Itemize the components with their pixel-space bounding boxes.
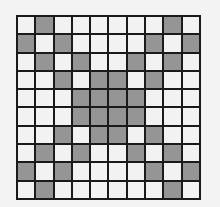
- filled-cell: [109, 127, 125, 143]
- filled-cell: [36, 54, 52, 70]
- empty-cell: [73, 35, 89, 51]
- empty-cell: [164, 163, 180, 179]
- empty-cell: [183, 127, 199, 143]
- empty-cell: [109, 163, 125, 179]
- empty-cell: [73, 17, 89, 33]
- filled-cell: [73, 90, 89, 106]
- empty-cell: [55, 17, 71, 33]
- filled-cell: [36, 145, 52, 161]
- empty-cell: [55, 145, 71, 161]
- empty-cell: [91, 182, 107, 198]
- filled-cell: [183, 163, 199, 179]
- empty-cell: [164, 35, 180, 51]
- empty-cell: [146, 145, 162, 161]
- empty-cell: [91, 145, 107, 161]
- empty-cell: [18, 145, 34, 161]
- empty-cell: [18, 182, 34, 198]
- empty-cell: [36, 72, 52, 88]
- empty-cell: [55, 182, 71, 198]
- filled-cell: [91, 72, 107, 88]
- filled-cell: [164, 17, 180, 33]
- filled-cell: [91, 108, 107, 124]
- empty-cell: [183, 182, 199, 198]
- filled-cell: [18, 35, 34, 51]
- filled-cell: [36, 17, 52, 33]
- filled-cell: [73, 108, 89, 124]
- empty-cell: [128, 17, 144, 33]
- empty-cell: [183, 90, 199, 106]
- empty-cell: [164, 72, 180, 88]
- empty-cell: [128, 163, 144, 179]
- filled-cell: [109, 90, 125, 106]
- empty-cell: [146, 108, 162, 124]
- filled-cell: [164, 54, 180, 70]
- empty-cell: [128, 182, 144, 198]
- empty-cell: [73, 163, 89, 179]
- filled-cell: [55, 72, 71, 88]
- filled-cell: [146, 163, 162, 179]
- empty-cell: [146, 54, 162, 70]
- empty-cell: [183, 54, 199, 70]
- empty-cell: [36, 35, 52, 51]
- empty-cell: [36, 90, 52, 106]
- filled-cell: [55, 35, 71, 51]
- empty-cell: [73, 72, 89, 88]
- diagram-canvas: [0, 0, 220, 207]
- filled-cell: [91, 90, 107, 106]
- filled-cell: [164, 182, 180, 198]
- pattern-grid: [16, 15, 201, 200]
- empty-cell: [18, 17, 34, 33]
- empty-cell: [164, 127, 180, 143]
- empty-cell: [91, 17, 107, 33]
- filled-cell: [55, 163, 71, 179]
- filled-cell: [128, 145, 144, 161]
- filled-cell: [128, 54, 144, 70]
- empty-cell: [36, 163, 52, 179]
- empty-cell: [18, 54, 34, 70]
- empty-cell: [18, 127, 34, 143]
- empty-cell: [146, 17, 162, 33]
- filled-cell: [36, 182, 52, 198]
- empty-cell: [146, 182, 162, 198]
- empty-cell: [18, 108, 34, 124]
- empty-cell: [73, 182, 89, 198]
- empty-cell: [109, 182, 125, 198]
- filled-cell: [164, 145, 180, 161]
- empty-cell: [164, 90, 180, 106]
- filled-cell: [73, 145, 89, 161]
- filled-cell: [146, 72, 162, 88]
- empty-cell: [36, 108, 52, 124]
- empty-cell: [109, 145, 125, 161]
- filled-cell: [91, 127, 107, 143]
- filled-cell: [146, 127, 162, 143]
- empty-cell: [55, 108, 71, 124]
- filled-cell: [55, 127, 71, 143]
- empty-cell: [91, 54, 107, 70]
- filled-cell: [128, 90, 144, 106]
- empty-cell: [91, 163, 107, 179]
- filled-cell: [183, 35, 199, 51]
- empty-cell: [183, 72, 199, 88]
- empty-cell: [183, 17, 199, 33]
- empty-cell: [109, 54, 125, 70]
- empty-cell: [55, 90, 71, 106]
- filled-cell: [18, 163, 34, 179]
- empty-cell: [109, 17, 125, 33]
- empty-cell: [146, 90, 162, 106]
- empty-cell: [128, 127, 144, 143]
- empty-cell: [183, 145, 199, 161]
- empty-cell: [55, 54, 71, 70]
- empty-cell: [164, 108, 180, 124]
- empty-cell: [128, 35, 144, 51]
- empty-cell: [128, 72, 144, 88]
- empty-cell: [109, 35, 125, 51]
- filled-cell: [128, 108, 144, 124]
- empty-cell: [91, 35, 107, 51]
- filled-cell: [146, 35, 162, 51]
- empty-cell: [73, 127, 89, 143]
- empty-cell: [36, 127, 52, 143]
- empty-cell: [18, 72, 34, 88]
- filled-cell: [73, 54, 89, 70]
- empty-cell: [18, 90, 34, 106]
- filled-cell: [109, 108, 125, 124]
